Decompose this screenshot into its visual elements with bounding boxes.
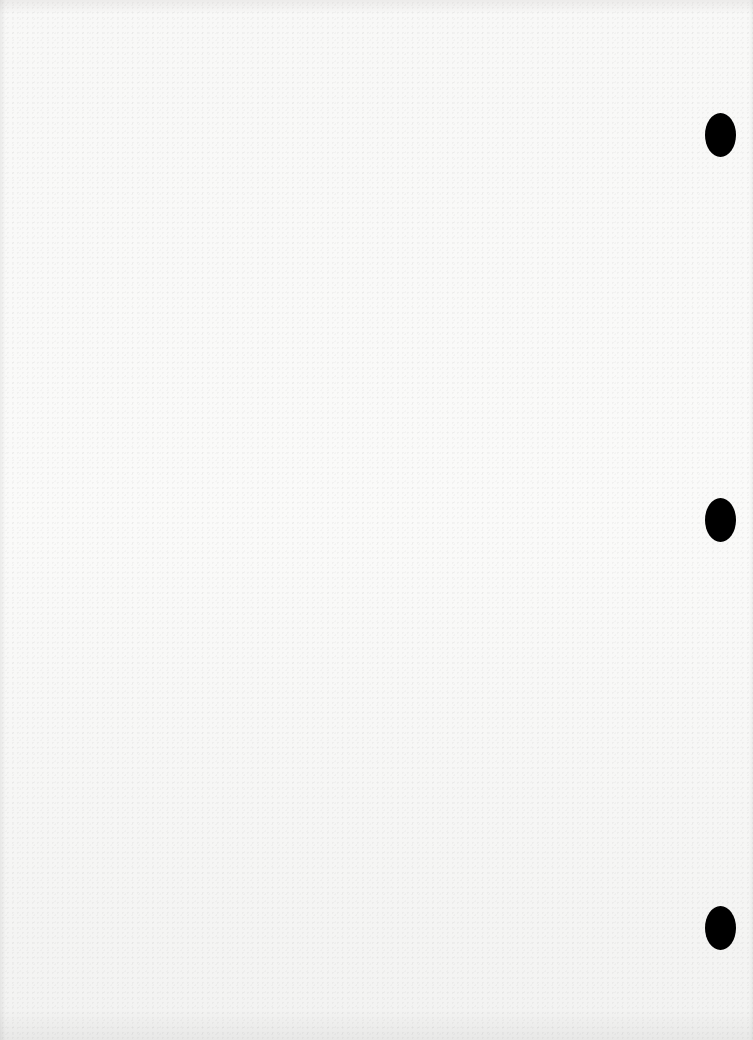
page-left-edge-shadow <box>0 0 6 1040</box>
page-right-edge-shadow <box>749 0 753 1040</box>
punch-hole-top <box>705 113 736 157</box>
punch-hole-middle <box>705 498 736 542</box>
punch-hole-bottom <box>705 906 736 950</box>
blank-scanned-page <box>0 0 753 1040</box>
